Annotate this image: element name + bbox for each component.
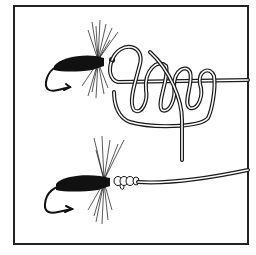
tightened-knot (114, 177, 139, 190)
fly-top (46, 20, 118, 98)
loose-knot-line (110, 47, 248, 160)
fly-bottom (45, 136, 248, 224)
illustration-frame (14, 6, 248, 244)
